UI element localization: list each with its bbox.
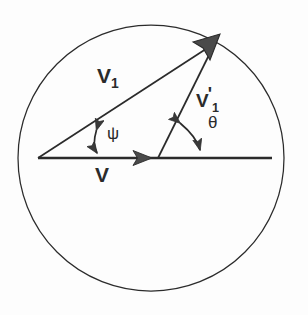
label-v1-base: V: [97, 64, 111, 87]
label-theta-symbol: θ: [208, 113, 217, 132]
label-v1: V1: [97, 64, 119, 91]
label-v1-prime: V'1: [196, 84, 219, 115]
shared-tip-arrowhead: [193, 34, 220, 60]
vector-diagram-figure: V1 V'1 V ψ θ: [0, 0, 308, 315]
label-v: V: [95, 163, 109, 187]
label-v-base: V: [95, 163, 109, 186]
label-psi: ψ: [107, 124, 119, 144]
label-psi-symbol: ψ: [107, 124, 119, 143]
label-theta: θ: [208, 113, 217, 133]
theta-angle-arc: [180, 123, 200, 150]
vector-diagram-canvas: [0, 0, 308, 315]
label-v1-subscript: 1: [111, 75, 119, 91]
v1-vector-line: [38, 47, 209, 158]
psi-angle-arc: [94, 130, 97, 153]
label-v1-prime-base: V: [196, 90, 209, 111]
